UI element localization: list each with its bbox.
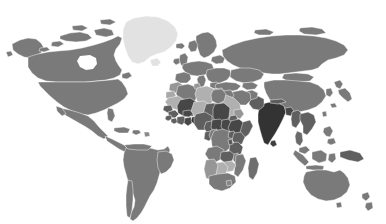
world-map-figure (0, 0, 386, 224)
region-tasmania (336, 202, 342, 208)
region-iberia (175, 72, 191, 83)
world-map-svg[interactable] (0, 0, 386, 224)
region-java (306, 165, 324, 170)
